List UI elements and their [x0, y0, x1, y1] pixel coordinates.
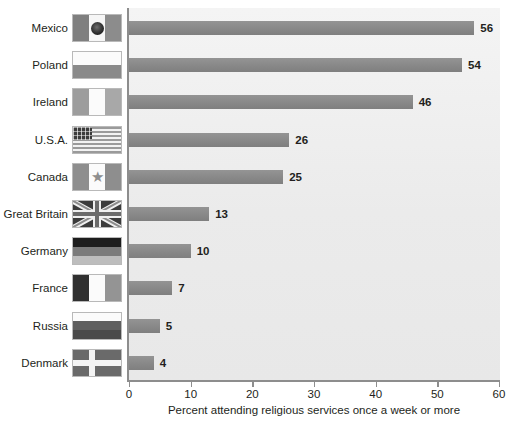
country-label: Canada — [0, 159, 68, 195]
x-axis-title: Percent attending religious services onc… — [128, 404, 500, 416]
flag-usa-icon — [72, 126, 122, 154]
country-label: Great Britain — [0, 196, 68, 232]
bar-value-label: 46 — [419, 94, 432, 110]
bar — [129, 95, 413, 109]
country-label: Germany — [0, 233, 68, 269]
flag-germany-icon — [72, 237, 122, 265]
country-label: Russia — [0, 308, 68, 344]
chart-row: France7 — [0, 270, 512, 306]
flag-great-britain-icon — [72, 200, 122, 228]
bar-value-label: 4 — [160, 355, 166, 371]
flag-poland-icon — [72, 51, 122, 79]
flag-france-icon — [72, 274, 122, 302]
country-label: France — [0, 270, 68, 306]
x-tick-label: 60 — [493, 388, 506, 400]
chart-row: Germany10 — [0, 233, 512, 269]
flag-denmark-icon — [72, 349, 122, 377]
chart-row: U.S.A.26 — [0, 122, 512, 158]
x-tick-mark — [437, 381, 438, 387]
chart-row: Mexico56 — [0, 10, 512, 46]
bar — [129, 281, 172, 295]
bar — [129, 244, 191, 258]
country-label: Ireland — [0, 84, 68, 120]
x-tick-mark — [499, 381, 500, 387]
bar-value-label: 5 — [166, 318, 172, 334]
chart-row: Ireland46 — [0, 84, 512, 120]
x-tick-mark — [252, 381, 253, 387]
chart-row: Canada★25 — [0, 159, 512, 195]
flag-ireland-icon — [72, 88, 122, 116]
bar-value-label: 56 — [480, 20, 493, 36]
bar — [129, 207, 209, 221]
x-tick-mark — [191, 381, 192, 387]
flag-mexico-icon — [72, 14, 122, 42]
bar-chart: 0102030405060 Mexico56Poland54Ireland46U… — [0, 0, 512, 424]
bar-value-label: 7 — [178, 280, 184, 296]
bar — [129, 319, 160, 333]
x-tick-label: 40 — [369, 388, 382, 400]
flag-russia-icon — [72, 312, 122, 340]
country-label: U.S.A. — [0, 122, 68, 158]
country-label: Mexico — [0, 10, 68, 46]
bar-value-label: 10 — [197, 243, 210, 259]
chart-row: Great Britain13 — [0, 196, 512, 232]
country-label: Poland — [0, 47, 68, 83]
maple-leaf-icon: ★ — [90, 169, 105, 184]
bar-value-label: 54 — [468, 57, 481, 73]
x-tick-label: 50 — [431, 388, 444, 400]
flag-canada-icon: ★ — [72, 163, 122, 191]
country-label: Denmark — [0, 345, 68, 381]
bar — [129, 356, 154, 370]
bar — [129, 21, 474, 35]
bar — [129, 170, 283, 184]
x-tick-label: 0 — [126, 388, 132, 400]
chart-row: Denmark4 — [0, 345, 512, 381]
x-tick-label: 30 — [308, 388, 321, 400]
x-tick-mark — [314, 381, 315, 387]
bar — [129, 133, 289, 147]
bar — [129, 58, 462, 72]
chart-row: Poland54 — [0, 47, 512, 83]
x-tick-mark — [376, 381, 377, 387]
x-tick-label: 10 — [184, 388, 197, 400]
x-tick-mark — [129, 381, 130, 387]
bar-value-label: 26 — [295, 132, 308, 148]
chart-row: Russia5 — [0, 308, 512, 344]
mexico-eagle-emblem — [91, 22, 104, 35]
bar-value-label: 25 — [289, 169, 302, 185]
x-tick-label: 20 — [246, 388, 259, 400]
bar-value-label: 13 — [215, 206, 228, 222]
